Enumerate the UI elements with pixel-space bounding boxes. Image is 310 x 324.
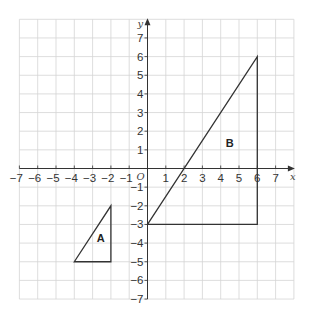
coordinate-plane: −7−6−5−4−3−2−11234567−7−6−5−4−3−2−112345… [0, 0, 310, 324]
triangle-b-label: B [226, 137, 234, 149]
y-tick-label: 3 [137, 107, 143, 119]
x-tick-label: 5 [236, 172, 242, 184]
y-tick-label: −2 [130, 200, 143, 212]
axes [19, 18, 295, 299]
x-tick-label: −7 [10, 172, 23, 184]
x-tick-label: −5 [46, 172, 59, 184]
y-tick-label: 4 [137, 88, 144, 100]
x-tick-label: 3 [199, 172, 205, 184]
y-tick-label: 5 [137, 69, 143, 81]
y-tick-label: 7 [137, 32, 143, 44]
x-tick-label: 1 [163, 172, 169, 184]
y-tick-label: −7 [130, 293, 143, 305]
x-tick-label: −2 [101, 172, 114, 184]
y-axis-label: y [137, 18, 144, 29]
origin-label: O [137, 171, 145, 182]
y-tick-label: −6 [130, 274, 143, 286]
y-tick-label: −1 [130, 181, 143, 193]
y-tick-label: 1 [137, 144, 143, 156]
triangle-a-label: A [97, 232, 105, 244]
y-tick-label: 6 [137, 51, 143, 63]
y-tick-label: −5 [130, 256, 143, 268]
y-tick-label: −3 [130, 218, 143, 230]
x-tick-label: −3 [83, 172, 96, 184]
x-tick-label: 7 [272, 172, 278, 184]
grid-lines [19, 19, 294, 299]
x-tick-label: −4 [65, 172, 79, 184]
coordinate-diagram: −7−6−5−4−3−2−11234567−7−6−5−4−3−2−112345… [0, 0, 310, 324]
x-tick-label: −6 [28, 172, 41, 184]
x-tick-label: 4 [217, 172, 224, 184]
x-tick-label: 2 [181, 172, 187, 184]
y-tick-label: 2 [137, 125, 143, 137]
y-tick-label: −4 [130, 237, 144, 249]
x-axis-label: x [290, 171, 296, 182]
